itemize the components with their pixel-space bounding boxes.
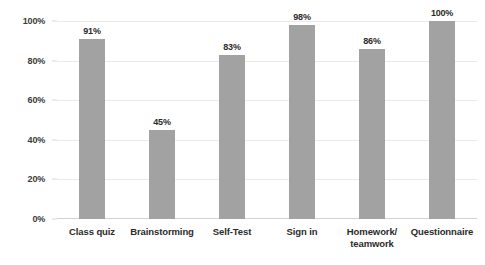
x-tick-slot: Questionnaire: [407, 222, 477, 265]
bar[interactable]: 100%: [429, 21, 455, 219]
bar-value-label: 91%: [83, 26, 100, 36]
bar-slot: 45%: [127, 21, 197, 219]
bar-slot: 83%: [197, 21, 267, 219]
x-tick-slot: Sign in: [267, 222, 337, 265]
y-tick-label-60: 60%: [28, 95, 45, 105]
bar[interactable]: 45%: [149, 130, 175, 219]
bar-value-label: 86%: [363, 36, 380, 46]
bar-value-label: 98%: [293, 12, 310, 22]
x-tick-slot: Class quiz: [57, 222, 127, 265]
y-axis: 100% 80% 60% 40% 20% 0%: [0, 0, 57, 265]
bar[interactable]: 83%: [219, 55, 245, 219]
y-tick-label-100: 100%: [23, 16, 45, 26]
bar[interactable]: 91%: [79, 39, 105, 219]
bars-layer: 91% 45% 83% 98% 86%: [57, 21, 477, 219]
x-tick-label-self-test: Self-Test: [197, 226, 267, 238]
x-tick-slot: Brainstorming: [127, 222, 197, 265]
bar-slot: 100%: [407, 21, 477, 219]
bar-value-label: 45%: [153, 117, 170, 127]
bar-slot: 98%: [267, 21, 337, 219]
x-tick-slot: Self-Test: [197, 222, 267, 265]
y-tick-label-0: 0%: [32, 214, 45, 224]
x-tick-label-homework-teamwork: Homework/ teamwork: [337, 226, 407, 250]
x-tick-label-brainstorming: Brainstorming: [127, 226, 197, 238]
x-tick-label-sign-in: Sign in: [267, 226, 337, 238]
bar-value-label: 83%: [223, 42, 240, 52]
bar-chart: 100% 80% 60% 40% 20% 0% 91% 45%: [0, 0, 485, 265]
bar-value-label: 100%: [431, 8, 453, 18]
y-tick-label-20: 20%: [28, 174, 45, 184]
bar[interactable]: 86%: [359, 49, 385, 219]
bar-slot: 86%: [337, 21, 407, 219]
y-tick-label-40: 40%: [28, 135, 45, 145]
plot-area: 91% 45% 83% 98% 86%: [57, 21, 477, 219]
bar-slot: 91%: [57, 21, 127, 219]
x-tick-label-questionnaire: Questionnaire: [407, 226, 477, 238]
x-tick-slot: Homework/ teamwork: [337, 222, 407, 265]
x-tick-label-class-quiz: Class quiz: [57, 226, 127, 238]
bar[interactable]: 98%: [289, 25, 315, 219]
x-axis: Class quiz Brainstorming Self-Test Sign …: [57, 222, 477, 265]
y-tick-label-80: 80%: [28, 56, 45, 66]
